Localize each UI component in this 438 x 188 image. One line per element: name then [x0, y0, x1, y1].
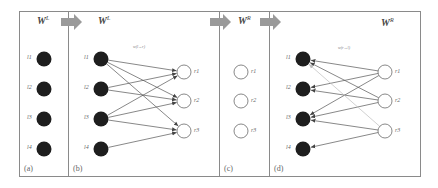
panel-d-title: WR: [381, 17, 394, 28]
edge-r2-l3: [311, 103, 378, 118]
right-node-r3: [378, 124, 392, 138]
right-node-r2: [378, 94, 392, 108]
left-node-l2: [296, 82, 311, 97]
panel-b-title: WL: [98, 15, 110, 26]
figure: WL WL WR WR w(l→r) w(r→l) (a) (b) (c) (d…: [0, 0, 438, 188]
node-label-l2: l2: [27, 84, 32, 90]
left-node-l1: [94, 52, 109, 67]
nodes: [37, 52, 393, 157]
edge-r1-l1: [311, 60, 378, 71]
node-label-l3: l3: [84, 114, 89, 120]
node-label-r1: r1: [194, 68, 199, 74]
edge-r3-l3: [311, 120, 378, 130]
left-node-l2: [94, 82, 109, 97]
left-node-l3: [296, 112, 311, 127]
panel-b-label: (b): [73, 164, 82, 173]
edge-weight-label-b: w(l→r): [133, 44, 145, 49]
right-node-r2: [177, 94, 191, 108]
node-label-r1: r1: [251, 68, 256, 74]
edge-l1-r2: [108, 62, 178, 97]
edge-l1-r1: [108, 60, 176, 71]
edge-r3-l4: [311, 133, 378, 148]
right-node-r2: [234, 94, 248, 108]
right-node-r1: [177, 65, 191, 79]
node-label-r2: r2: [194, 97, 199, 103]
left-node-l4: [296, 142, 311, 157]
node-label-r3: r3: [251, 127, 256, 133]
edge-r2-l1: [310, 63, 379, 98]
panel-c-title: WR: [238, 15, 251, 26]
right-node-r3: [234, 124, 248, 138]
node-label-r3: r3: [194, 127, 199, 133]
edge-r3-l1: [309, 64, 380, 126]
node-label-l4: l4: [286, 144, 291, 150]
left-node-l1: [37, 52, 52, 67]
node-label-r3: r3: [395, 127, 400, 133]
node-label-l3: l3: [27, 114, 32, 120]
edge-l3-r1: [108, 76, 178, 116]
edge-weight-label-d: w(r→l): [338, 45, 350, 50]
left-node-l3: [94, 112, 109, 127]
panel-a-title: WL: [37, 15, 49, 26]
edge-l3-r2: [108, 103, 176, 118]
edges-panel-d: [309, 60, 380, 147]
left-node-l1: [296, 52, 311, 67]
transition-arrow-icon: [61, 14, 82, 30]
right-node-r1: [378, 65, 392, 79]
node-label-l3: l3: [286, 114, 291, 120]
transition-arrow-icon: [210, 14, 231, 30]
edge-l3-r3: [108, 120, 176, 130]
node-label-r2: r2: [251, 97, 256, 103]
node-label-l1: l1: [286, 54, 291, 60]
node-label-l4: l4: [27, 144, 32, 150]
edges-panel-b: [107, 60, 179, 147]
figure-canvas: [0, 0, 438, 188]
node-label-r1: r1: [395, 68, 400, 74]
node-label-l4: l4: [84, 144, 89, 150]
panel-c-label: (c): [224, 164, 233, 173]
node-label-l2: l2: [84, 84, 89, 90]
edge-l4-r3: [108, 133, 176, 148]
node-label-l2: l2: [286, 84, 291, 90]
panel-a-label: (a): [24, 164, 33, 173]
left-node-l2: [37, 82, 52, 97]
transition-arrow-icon: [260, 14, 281, 30]
edge-l2-r2: [108, 90, 176, 100]
right-node-r1: [234, 65, 248, 79]
left-node-l3: [37, 112, 52, 127]
node-label-r2: r2: [395, 97, 400, 103]
left-node-l4: [94, 142, 109, 157]
right-node-r3: [177, 124, 191, 138]
panel-d-label: (d): [274, 164, 283, 173]
edge-l2-r1: [108, 74, 176, 88]
left-node-l4: [37, 142, 52, 157]
node-label-l1: l1: [27, 54, 32, 60]
node-label-l1: l1: [84, 54, 89, 60]
